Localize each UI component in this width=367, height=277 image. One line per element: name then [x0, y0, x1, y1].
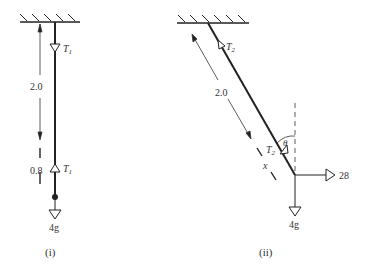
tension-arrow-upper-i [50, 44, 60, 52]
tension-label-upper-i: T1 [63, 43, 72, 56]
ceiling-i [20, 14, 80, 22]
length-label-ii: 2.0 [215, 87, 228, 98]
weight-label-ii: 4g [289, 219, 299, 230]
tension-arrow-lower-i [50, 164, 60, 172]
segment-label-i: 0.8 [30, 165, 43, 176]
figure-i: 2.0 0.8 T1 T1 4g (i) [20, 14, 80, 259]
horizontal-force-label: 28 [339, 170, 349, 181]
caption-i: (i) [45, 246, 56, 259]
tension-arrow-upper-ii [218, 40, 225, 49]
tension-label-lower-i: T1 [63, 163, 72, 176]
distance-label: x [262, 160, 268, 171]
ceiling-ii [177, 15, 249, 23]
horizontal-force-arrow [326, 169, 335, 181]
weight-label-i: 4g [49, 222, 59, 233]
mechanics-diagram: 2.0 0.8 T1 T1 4g (i) [0, 0, 367, 277]
weight-arrow-ii [289, 207, 301, 216]
weight-arrow-i [49, 210, 61, 219]
tension-label-upper-ii: T2 [226, 41, 236, 54]
caption-ii: (ii) [259, 246, 273, 259]
diagram-canvas: 2.0 0.8 T1 T1 4g (i) [0, 0, 367, 277]
tension-label-lower-ii: T2 [266, 144, 276, 157]
figure-ii: θ 2.0 x T2 T2 28 4g (ii) [177, 15, 349, 259]
length-label-i: 2.0 [30, 81, 43, 92]
